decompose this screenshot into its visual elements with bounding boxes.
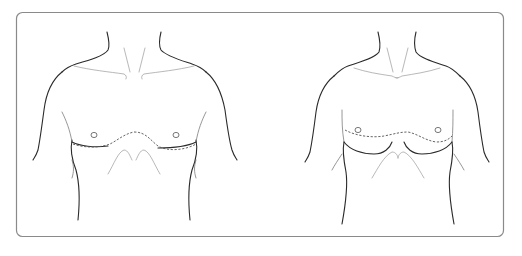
chest-illustration bbox=[0, 0, 522, 256]
female-chest-figure bbox=[305, 32, 489, 224]
male-chest-figure bbox=[33, 32, 237, 220]
illustration-canvas bbox=[0, 0, 522, 256]
figure-frame bbox=[17, 13, 504, 237]
